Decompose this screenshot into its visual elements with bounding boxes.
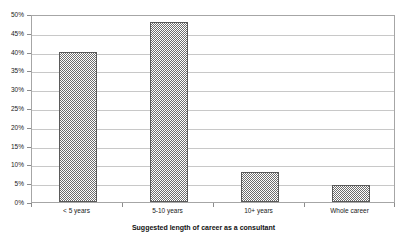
gridline bbox=[32, 35, 394, 36]
bar bbox=[241, 172, 279, 202]
y-tick-label: 25% bbox=[11, 106, 24, 113]
bar-chart: 0%5%10%15%20%25%30%35%40%45%50% < 5 year… bbox=[0, 0, 407, 243]
y-tick-label: 35% bbox=[11, 68, 24, 75]
y-tick-label: 20% bbox=[11, 125, 24, 132]
y-tick-label: 45% bbox=[11, 31, 24, 38]
y-axis: 0%5%10%15%20%25%30%35%40%45%50% bbox=[0, 0, 31, 203]
x-axis-title: Suggested length of career as a consulta… bbox=[0, 224, 407, 231]
x-axis-category-labels: < 5 years5-10 years10+ yearsWhole career bbox=[31, 208, 395, 220]
x-tick-mark bbox=[304, 203, 305, 207]
y-tick-label: 30% bbox=[11, 87, 24, 94]
y-tick-label: 0% bbox=[15, 200, 24, 207]
y-tick-label: 15% bbox=[11, 143, 24, 150]
x-tick-label: Whole career bbox=[330, 208, 369, 215]
x-tick-mark bbox=[213, 203, 214, 207]
x-tick-mark bbox=[31, 203, 32, 207]
x-tick-mark bbox=[394, 203, 395, 207]
x-tick-mark bbox=[122, 203, 123, 207]
bar bbox=[59, 52, 97, 202]
bar bbox=[150, 22, 188, 202]
y-tick-label: 40% bbox=[11, 49, 24, 56]
x-tick-label: 5-10 years bbox=[152, 208, 183, 215]
bar bbox=[332, 185, 370, 202]
x-tick-label: 10+ years bbox=[244, 208, 273, 215]
y-tick-label: 50% bbox=[11, 12, 24, 19]
y-tick-label: 10% bbox=[11, 162, 24, 169]
x-tick-label: < 5 years bbox=[63, 208, 90, 215]
plot-area bbox=[31, 15, 395, 203]
y-tick-label: 5% bbox=[15, 181, 24, 188]
